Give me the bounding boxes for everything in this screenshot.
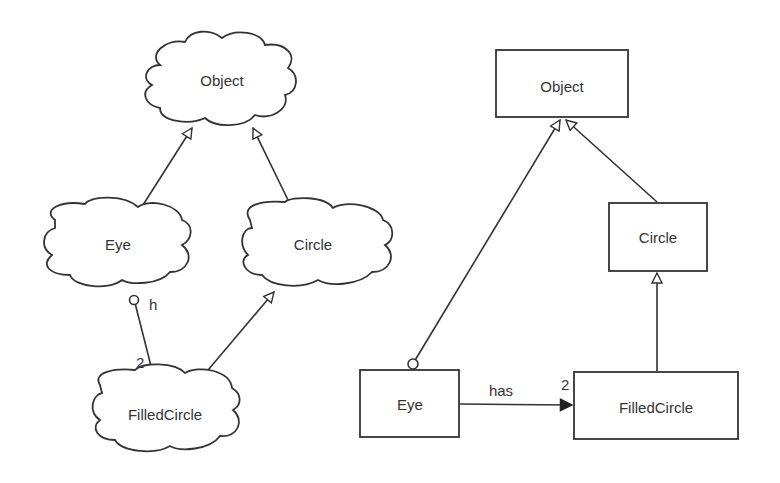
edge-circle-to-object-r (566, 120, 657, 202)
association-label-has: has (489, 382, 513, 399)
role-label-h: h (149, 296, 157, 313)
node-circle-label: Circle (294, 236, 332, 253)
multiplicity-label-2: 2 (136, 354, 144, 371)
aggregation-circle-icon (130, 296, 139, 305)
edge-eye-has-filledcircle-r[interactable] (460, 404, 572, 405)
node-circle-box[interactable]: Circle (609, 203, 707, 271)
aggregation-circle-icon-r (408, 359, 418, 369)
edge-eye-to-object-r (414, 120, 560, 362)
node-object-cloud[interactable]: Object (145, 32, 296, 126)
node-filledcircle-label-r: FilledCircle (619, 399, 693, 416)
multiplicity-label-2-r: 2 (561, 376, 569, 393)
node-eye-label-r: Eye (397, 396, 423, 413)
right-diagram: Object Circle Eye FilledCircle has 2 (360, 50, 738, 439)
class-diagrams: Object Eye Circle FilledCircle h 2 (0, 0, 780, 483)
edge-eye-to-object (143, 128, 192, 205)
node-circle-cloud[interactable]: Circle (242, 198, 392, 286)
node-filledcircle-label: FilledCircle (128, 406, 202, 423)
node-object-box[interactable]: Object (496, 50, 628, 117)
node-filledcircle-box[interactable]: FilledCircle (574, 372, 738, 439)
node-circle-label-r: Circle (639, 229, 677, 246)
node-eye-cloud[interactable]: Eye (44, 198, 191, 287)
node-filledcircle-cloud[interactable]: FilledCircle (93, 364, 240, 451)
node-object-label: Object (200, 72, 244, 89)
left-diagram: Object Eye Circle FilledCircle h 2 (44, 32, 392, 452)
edge-filledcircle-to-circle (203, 292, 274, 376)
node-object-label-r: Object (540, 78, 584, 95)
edge-circle-to-object (253, 128, 289, 202)
node-eye-box[interactable]: Eye (360, 370, 459, 437)
node-eye-label: Eye (105, 236, 131, 253)
